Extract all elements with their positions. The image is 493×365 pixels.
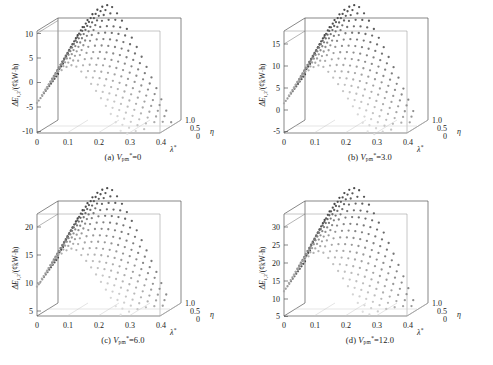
surface-mesh-c <box>36 187 168 316</box>
y-axis-ticks-a: 1.0 0.5 0 <box>185 116 200 141</box>
svg-text:0: 0 <box>276 106 280 115</box>
svg-text:0.4: 0.4 <box>156 321 166 330</box>
svg-text:0.4: 0.4 <box>403 321 413 330</box>
z-axis-label-b: ΔE1,2/(¢kW·h) <box>258 63 269 107</box>
subplot-caption-b: (b) Vpm*=3.0 <box>247 152 493 162</box>
svg-text:0: 0 <box>196 315 200 324</box>
plot-svg-b: 15 10 5 0 -5 0 0.1 0.2 <box>247 0 493 156</box>
y-axis-label-a: η <box>210 127 214 136</box>
svg-text:0.1: 0.1 <box>310 321 320 330</box>
surface-mesh-b <box>283 4 415 135</box>
svg-text:5: 5 <box>276 84 280 93</box>
svg-text:0: 0 <box>35 321 39 330</box>
subplot-caption-d: (d) Vpm*=12.0 <box>247 335 493 345</box>
svg-text:10: 10 <box>272 295 280 304</box>
svg-text:10: 10 <box>25 30 33 39</box>
axis-name-group-d: λ* η ΔE1,2/(¢kW·h) <box>258 246 461 337</box>
svg-text:0.4: 0.4 <box>156 138 166 147</box>
svg-text:0.1: 0.1 <box>63 321 73 330</box>
subplot-panel-c: 20 15 10 5 0 0.1 0.2 0.3 0.4 <box>0 183 246 365</box>
surface-mesh-a <box>36 4 172 135</box>
x-axis-ticks-a: 0 0.1 0.2 0.3 0.4 <box>35 138 166 147</box>
svg-text:25: 25 <box>272 241 280 250</box>
svg-text:0.2: 0.2 <box>94 321 104 330</box>
x-axis-ticks-c: 0 0.1 0.2 0.3 0.4 <box>35 321 166 330</box>
subplot-panel-b: 15 10 5 0 -5 0 0.1 0.2 <box>247 0 493 182</box>
subplot-caption-c: (c) Vpm*=6.0 <box>0 335 246 345</box>
z-axis-label-a: ΔE1,2/(¢kW·h) <box>11 63 22 107</box>
svg-text:0: 0 <box>29 78 33 87</box>
svg-text:0: 0 <box>35 138 39 147</box>
svg-text:0.2: 0.2 <box>341 138 351 147</box>
subplot-panel-a: 10 5 0 -5 -10 0 0.1 <box>0 0 246 182</box>
svg-text:5: 5 <box>29 307 33 316</box>
svg-text:0.2: 0.2 <box>341 321 351 330</box>
x-axis-ticks-b: 0 0.1 0.2 0.3 0.4 <box>282 138 413 147</box>
svg-text:-5: -5 <box>26 103 33 112</box>
y-axis-label-c: η <box>210 310 214 319</box>
y-axis-ticks-c: 1.0 0.5 0 <box>185 299 200 324</box>
svg-text:20: 20 <box>272 259 280 268</box>
svg-text:0.3: 0.3 <box>125 321 135 330</box>
svg-text:0: 0 <box>282 138 286 147</box>
svg-text:0: 0 <box>443 132 447 141</box>
z-axis-ticks-b: 15 10 5 0 -5 <box>272 31 305 136</box>
svg-text:0: 0 <box>282 321 286 330</box>
svg-text:15: 15 <box>272 277 280 286</box>
svg-text:30: 30 <box>272 223 280 232</box>
x-axis-ticks-d: 0 0.1 0.2 0.3 0.4 <box>282 321 413 330</box>
svg-text:15: 15 <box>25 251 33 260</box>
plot-svg-c: 20 15 10 5 0 0.1 0.2 0.3 0.4 <box>0 183 246 339</box>
subplot-panel-d: 30 25 20 15 10 5 0 <box>247 183 493 365</box>
plot-area-c: 20 15 10 5 0 0.1 0.2 0.3 0.4 <box>0 183 246 339</box>
svg-text:0.4: 0.4 <box>403 138 413 147</box>
svg-text:0.2: 0.2 <box>94 138 104 147</box>
subplot-caption-a: (a) Vpm*=0 <box>0 152 246 162</box>
z-axis-label-d: ΔE1,2/(¢kW·h) <box>258 246 269 290</box>
svg-text:5: 5 <box>276 312 280 321</box>
svg-text:-10: -10 <box>22 127 33 136</box>
figure-root: 10 5 0 -5 -10 0 0.1 <box>0 0 493 365</box>
svg-text:0: 0 <box>196 132 200 141</box>
plot-svg-d: 30 25 20 15 10 5 0 <box>247 183 493 339</box>
y-axis-label-b: η <box>457 127 461 136</box>
surface-mesh-d <box>283 187 415 316</box>
y-axis-label-d: η <box>457 310 461 319</box>
y-axis-ticks-d: 1.0 0.5 0 <box>432 299 447 324</box>
svg-text:0.3: 0.3 <box>372 321 382 330</box>
z-axis-label-c: ΔE1,2/(¢kW·h) <box>11 246 22 290</box>
plot-area-b: 15 10 5 0 -5 0 0.1 0.2 <box>247 0 493 156</box>
svg-text:5: 5 <box>29 54 33 63</box>
svg-text:0: 0 <box>443 315 447 324</box>
svg-text:20: 20 <box>25 223 33 232</box>
plot-svg-a: 10 5 0 -5 -10 0 0.1 <box>0 0 246 156</box>
z-axis-ticks-d: 30 25 20 15 10 5 <box>272 214 305 321</box>
plot-area-a: 10 5 0 -5 -10 0 0.1 <box>0 0 246 156</box>
svg-text:10: 10 <box>25 279 33 288</box>
svg-text:0.1: 0.1 <box>310 138 320 147</box>
svg-text:10: 10 <box>272 62 280 71</box>
y-axis-ticks-b: 1.0 0.5 0 <box>432 116 447 141</box>
svg-text:-5: -5 <box>273 127 280 136</box>
plot-area-d: 30 25 20 15 10 5 0 <box>247 183 493 339</box>
svg-text:0.1: 0.1 <box>63 138 73 147</box>
svg-text:15: 15 <box>272 40 280 49</box>
svg-text:0.3: 0.3 <box>125 138 135 147</box>
svg-text:0.3: 0.3 <box>372 138 382 147</box>
